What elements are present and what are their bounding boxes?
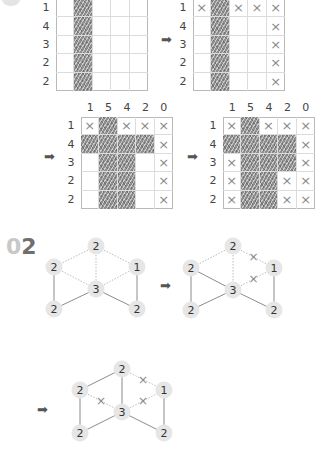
- node-label: 2: [230, 240, 237, 253]
- graph-2: ××221322: [183, 238, 283, 319]
- node-label: 1: [161, 384, 168, 397]
- node-label: 3: [119, 406, 126, 419]
- node-label: 2: [93, 240, 100, 253]
- section-02-graph-steps: 221322××221322×××221322: [0, 0, 335, 456]
- node-label: 2: [271, 304, 278, 317]
- node-label: 2: [119, 363, 126, 376]
- cross-mark-icon: ×: [248, 272, 258, 286]
- node-label: 2: [77, 427, 84, 440]
- node-label: 3: [93, 283, 100, 296]
- node-label: 2: [161, 427, 168, 440]
- node-label: 2: [134, 303, 141, 316]
- node-label: 1: [134, 261, 141, 274]
- node-label: 2: [51, 303, 58, 316]
- node-label: 2: [188, 304, 195, 317]
- node-label: 2: [188, 262, 195, 275]
- cross-mark-icon: ×: [138, 394, 148, 408]
- graph-3: ×××221322: [72, 361, 173, 442]
- cross-mark-icon: ×: [96, 394, 106, 408]
- node-label: 1: [271, 262, 278, 275]
- node-label: 2: [51, 261, 58, 274]
- node-label: 2: [77, 384, 84, 397]
- cross-mark-icon: ×: [138, 373, 148, 387]
- cross-mark-icon: ×: [248, 250, 258, 264]
- node-label: 3: [230, 284, 237, 297]
- graph-1: 221322: [46, 238, 146, 318]
